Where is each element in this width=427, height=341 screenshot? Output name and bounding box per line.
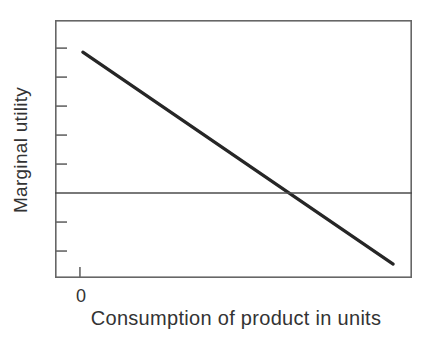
x-axis-label: Consumption of product in units: [91, 307, 382, 330]
x-tick-label-zero: 0: [76, 286, 86, 307]
y-axis-label: Marginal utility: [10, 87, 32, 213]
plot-area: [55, 20, 412, 278]
marginal-utility-curve: [83, 52, 393, 264]
marginal-utility-chart: Marginal utility 0 Consumption of produc…: [0, 0, 427, 341]
